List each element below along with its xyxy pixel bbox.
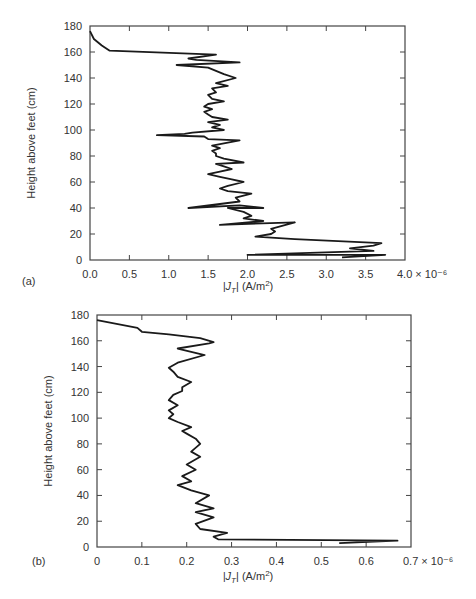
plot-frame bbox=[90, 26, 405, 260]
x-tick-label: 0.4 bbox=[269, 555, 284, 567]
x-tick-label: 0.6 bbox=[358, 555, 373, 567]
figure: 0.00.51.01.52.02.53.03.54.0 × 10⁻⁶020406… bbox=[0, 0, 476, 599]
y-tick-label: 60 bbox=[70, 176, 82, 188]
panel-b: 00.10.20.30.40.50.60.7 × 10⁻⁶02040608010… bbox=[32, 309, 453, 585]
x-tick-label: 0.7 × 10⁻⁶ bbox=[403, 555, 453, 567]
panel-label: (a) bbox=[22, 275, 35, 287]
panel-a: 0.00.51.01.52.02.53.03.54.0 × 10⁻⁶020406… bbox=[22, 20, 447, 295]
x-tick-label: 2.0 bbox=[240, 268, 255, 280]
x-tick-label: 0.0 bbox=[82, 268, 97, 280]
x-axis-label: |JT| (A/m2) bbox=[223, 279, 274, 295]
x-tick-label: 0.2 bbox=[179, 555, 194, 567]
y-tick-label: 160 bbox=[71, 335, 89, 347]
y-tick-label: 40 bbox=[77, 489, 89, 501]
y-tick-label: 160 bbox=[64, 46, 82, 58]
x-tick-label: 3.5 bbox=[358, 268, 373, 280]
x-tick-label: 2.5 bbox=[279, 268, 294, 280]
x-tick-label: 3.0 bbox=[319, 268, 334, 280]
y-tick-label: 120 bbox=[71, 386, 89, 398]
y-tick-label: 20 bbox=[70, 228, 82, 240]
y-tick-label: 100 bbox=[71, 412, 89, 424]
y-tick-label: 180 bbox=[64, 20, 82, 32]
y-tick-label: 80 bbox=[77, 438, 89, 450]
x-axis-label: |JT| (A/m2) bbox=[223, 569, 274, 585]
y-tick-label: 0 bbox=[83, 541, 89, 553]
x-tick-label: 0.3 bbox=[224, 555, 239, 567]
y-tick-label: 140 bbox=[64, 72, 82, 84]
y-tick-label: 0 bbox=[76, 254, 82, 266]
panel-label: (b) bbox=[32, 555, 45, 567]
x-tick-label: 0.1 bbox=[134, 555, 149, 567]
x-tick-label: 4.0 × 10⁻⁶ bbox=[397, 268, 447, 280]
x-tick-label: 1.0 bbox=[161, 268, 176, 280]
x-tick-label: 0.5 bbox=[122, 268, 137, 280]
y-tick-label: 80 bbox=[70, 150, 82, 162]
data-curve bbox=[90, 31, 385, 257]
y-tick-label: 40 bbox=[70, 202, 82, 214]
data-curve bbox=[97, 320, 398, 543]
plot-frame bbox=[97, 315, 411, 547]
y-tick-label: 180 bbox=[71, 309, 89, 321]
y-tick-label: 100 bbox=[64, 124, 82, 136]
x-tick-label: 0.5 bbox=[314, 555, 329, 567]
y-axis-label: Height above feet (cm) bbox=[25, 87, 37, 198]
y-tick-label: 120 bbox=[64, 98, 82, 110]
y-tick-label: 140 bbox=[71, 361, 89, 373]
x-tick-label: 1.5 bbox=[200, 268, 215, 280]
y-axis-label: Height above feet (cm) bbox=[42, 375, 54, 486]
y-tick-label: 20 bbox=[77, 515, 89, 527]
y-tick-label: 60 bbox=[77, 464, 89, 476]
x-tick-label: 0 bbox=[94, 555, 100, 567]
